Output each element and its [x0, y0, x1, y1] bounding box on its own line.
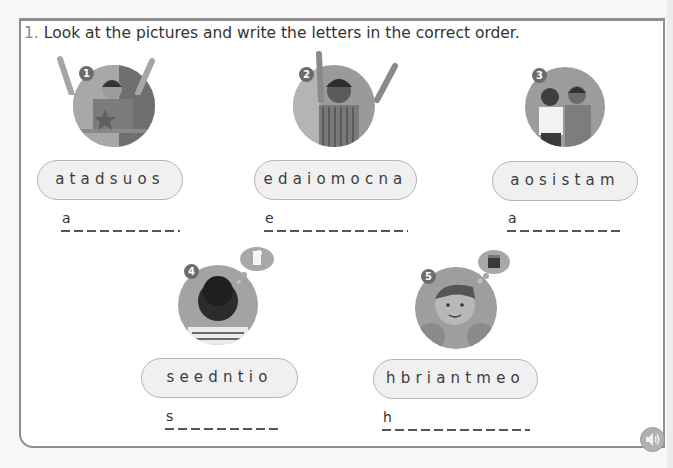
answer-first-letter: e [265, 210, 274, 226]
answer-blanks [382, 429, 530, 431]
answer-blanks [61, 230, 180, 232]
answer-first-letter: a [508, 210, 517, 226]
item-number-badge: 5 [421, 269, 436, 284]
item-number-badge: 2 [299, 67, 314, 82]
arms-up-decoration [305, 50, 405, 110]
scrambled-letters-pill: atadsuos [37, 160, 183, 200]
scrambled-letters-pill: edaiomocna [254, 160, 417, 200]
item-number-badge: 1 [79, 66, 94, 81]
answer-blanks [507, 230, 624, 232]
answer-line[interactable]: s [165, 408, 279, 430]
answer-line[interactable]: h [382, 409, 530, 431]
item-number-badge: 3 [532, 68, 547, 83]
arms-up-decoration [52, 55, 162, 95]
answer-line[interactable]: a [61, 210, 180, 232]
audio-play-button[interactable] [640, 427, 665, 452]
instruction-text: Look at the pictures and write the lette… [44, 24, 520, 42]
answer-line[interactable]: a [507, 210, 624, 232]
thought-bubble-drink-icon [232, 245, 276, 289]
answer-first-letter: a [62, 210, 71, 226]
answer-first-letter: s [166, 408, 173, 424]
answer-first-letter: h [383, 409, 392, 425]
scrambled-letters-pill: seedntio [141, 358, 298, 398]
item-number-badge: 4 [184, 264, 199, 279]
page-edge [667, 0, 673, 468]
exercise-number: 1. [24, 24, 39, 42]
answer-blanks [165, 428, 279, 430]
thought-bubble-food-icon [470, 248, 514, 292]
answer-blanks [264, 230, 408, 232]
speaker-icon [641, 428, 664, 451]
scrambled-letters-pill: aosistam [492, 161, 638, 201]
scrambled-letters-pill: hbriantmeo [373, 359, 538, 399]
exercise-instruction: 1.Look at the pictures and write the let… [24, 24, 520, 42]
answer-line[interactable]: e [264, 210, 408, 232]
